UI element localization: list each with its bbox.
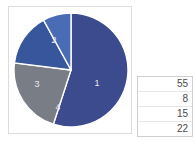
- table-cell-value[interactable]: 15: [138, 107, 192, 122]
- table-row[interactable]: 55: [138, 77, 192, 92]
- data-table-body: 5581522: [138, 77, 192, 136]
- pie-chart-svg: 1234: [13, 11, 129, 129]
- data-table[interactable]: 5581522: [138, 77, 192, 136]
- table-row[interactable]: 8: [138, 92, 192, 107]
- pie-slice-label-4: 4: [55, 102, 60, 112]
- table-row[interactable]: 22: [138, 122, 192, 137]
- table-cell-value[interactable]: 22: [138, 122, 192, 137]
- pie-chart[interactable]: 1234: [13, 11, 129, 129]
- chart-panel: 1234: [8, 6, 132, 134]
- pie-slice-label-3: 3: [34, 79, 39, 89]
- data-table-panel[interactable]: 5581522: [137, 76, 193, 137]
- pie-slice-label-2: 2: [51, 35, 56, 45]
- table-cell-value[interactable]: 8: [138, 92, 192, 107]
- table-cell-value[interactable]: 55: [138, 77, 192, 92]
- pie-slices: [14, 13, 128, 127]
- table-row[interactable]: 15: [138, 107, 192, 122]
- pie-slice-label-1: 1: [94, 78, 99, 88]
